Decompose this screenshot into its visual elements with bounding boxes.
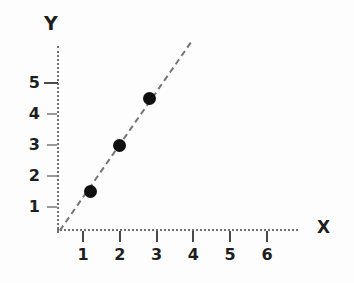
data-point: [113, 139, 126, 152]
y-tick-label: 4: [16, 104, 40, 123]
y-axis-tick: [44, 82, 58, 84]
x-tick-label: 3: [147, 245, 167, 264]
x-axis-title: X: [317, 219, 330, 236]
x-tick-label: 1: [73, 245, 93, 264]
x-axis-tick: [192, 231, 194, 242]
x-tick-label: 5: [220, 245, 240, 264]
x-axis-tick: [229, 231, 231, 242]
y-axis-tick: [47, 206, 57, 208]
y-tick-label: 1: [16, 197, 40, 216]
x-tick-label: 6: [257, 245, 277, 264]
y-tick-label: 3: [16, 135, 40, 154]
y-axis-line: [57, 46, 59, 233]
y-axis-tick: [47, 175, 57, 177]
y-axis-tick: [47, 113, 57, 115]
y-axis-title: Y: [44, 14, 58, 33]
x-axis-tick: [82, 231, 84, 242]
data-point: [84, 185, 97, 198]
y-axis-tick: [47, 144, 57, 146]
x-axis-tick: [266, 231, 268, 242]
x-axis-tick: [119, 231, 121, 242]
x-axis-tick: [156, 231, 158, 242]
y-tick-label: 2: [16, 166, 40, 185]
x-tick-label: 2: [110, 245, 130, 264]
x-tick-label: 4: [183, 245, 203, 264]
y-tick-label: 5: [16, 73, 40, 92]
scatter-plot: Y X 12345612345: [0, 0, 354, 283]
data-point: [143, 92, 156, 105]
x-axis-line: [57, 229, 298, 231]
trend-line: [59, 43, 191, 232]
